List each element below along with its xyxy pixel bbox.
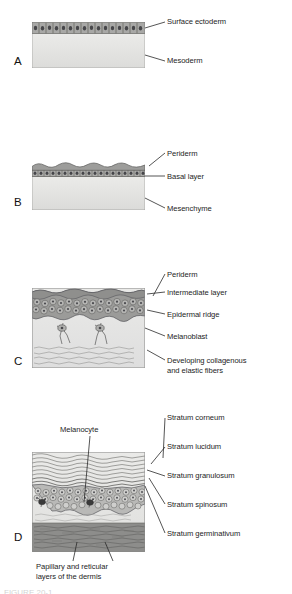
panel-d-melanocyte-leader	[60, 434, 110, 504]
label-melanoblast: Melanoblast	[167, 332, 207, 341]
label-intermediate-layer: Intermediate layer	[167, 288, 227, 297]
label-periderm-c: Periderm	[167, 270, 197, 279]
panel-c-svg	[32, 288, 145, 368]
label-stratum-spinosum: Stratum spinosum	[167, 500, 227, 509]
label-mesenchyme: Mesenchyme	[167, 204, 212, 213]
label-developing-fibers-1: Developing collagenous	[167, 356, 247, 365]
label-basal-layer: Basal layer	[167, 172, 204, 181]
panel-c-artwork	[32, 288, 145, 368]
label-dermis-layers-1: Papillary and reticular	[36, 562, 108, 571]
label-dermis-layers-2: layers of the dermis	[36, 572, 101, 581]
panel-a-artwork	[32, 22, 145, 68]
label-stratum-granulosum: Stratum granulosum	[167, 471, 234, 480]
label-mesoderm: Mesoderm	[167, 56, 202, 65]
periderm-layer	[32, 163, 145, 171]
label-stratum-lucidum: Stratum lucidum	[167, 442, 221, 451]
label-epidermal-ridge: Epidermal ridge	[167, 310, 219, 319]
label-surface-ectoderm: Surface ectoderm	[167, 17, 226, 26]
panel-letter-b: B	[14, 196, 22, 208]
panel-d-dermis-leaders	[55, 540, 145, 562]
panel-b-svg	[32, 160, 145, 210]
label-stratum-germinativum: Stratum germinativum	[167, 529, 240, 538]
figure-caption-cropped: FIGURE 20-1	[4, 588, 204, 594]
panel-b-artwork	[32, 160, 145, 210]
basal-layer-cells	[32, 170, 145, 176]
panel-letter-d: D	[14, 531, 22, 543]
surface-ectoderm-cells	[32, 23, 145, 34]
panel-letter-a: A	[14, 55, 22, 67]
panel-a-svg	[32, 22, 145, 68]
label-periderm-b: Periderm	[167, 149, 197, 158]
panel-letter-c: C	[14, 355, 22, 367]
label-developing-fibers-2: and elastic fibers	[167, 366, 223, 375]
skin-development-figure: A	[0, 0, 292, 594]
label-melanocyte: Melanocyte	[60, 425, 98, 434]
label-stratum-corneum: Stratum corneum	[167, 413, 225, 422]
